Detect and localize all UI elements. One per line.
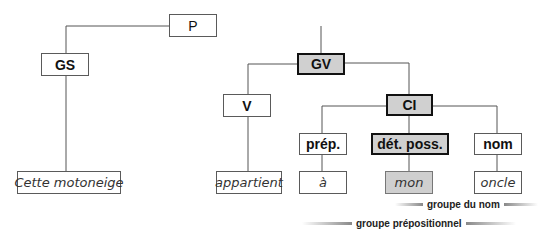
groupe-du-nom-text: groupe du nom: [427, 199, 500, 210]
label-groupe-du-nom: groupe du nom: [395, 198, 538, 210]
node-ci: CI: [386, 94, 433, 116]
node-nom: nom: [474, 133, 522, 155]
word-a: à: [299, 171, 347, 194]
bracket-left: [302, 222, 352, 225]
bracket-right: [504, 203, 538, 206]
syntax-tree-diagram: P GS GV V CI prép. dét. poss. nom Cette …: [0, 0, 540, 247]
word-appartient: appartient: [216, 171, 282, 194]
groupe-prepositionnel-text: groupe prépositionnel: [356, 218, 462, 229]
node-p: P: [169, 14, 217, 37]
word-mon: mon: [385, 171, 433, 194]
bracket-right: [466, 222, 516, 225]
node-v: V: [223, 94, 271, 117]
node-gv: GV: [297, 53, 345, 75]
node-det-poss: dét. poss.: [371, 133, 449, 155]
label-groupe-prepositionnel: groupe prépositionnel: [302, 217, 516, 229]
word-cette-motoneige: Cette motoneige: [17, 171, 121, 194]
bracket-left: [395, 203, 423, 206]
node-prep: prép.: [299, 133, 347, 155]
node-gs: GS: [41, 53, 89, 76]
word-oncle: oncle: [474, 171, 522, 194]
